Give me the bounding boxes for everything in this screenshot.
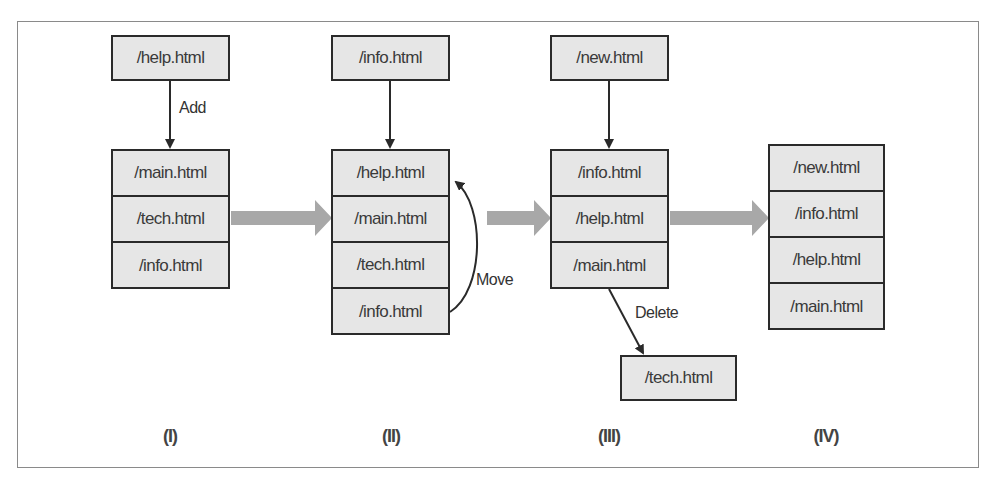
page-entry: /tech.html bbox=[622, 357, 735, 399]
transition-arrow-icon bbox=[231, 200, 332, 236]
page-entry: /info.html bbox=[770, 192, 883, 238]
page-entry: /info.html bbox=[552, 151, 667, 197]
page-entry: /main.html bbox=[333, 197, 448, 243]
page-entry: /help.html bbox=[333, 151, 448, 197]
page-entry: /new.html bbox=[552, 37, 667, 79]
operation-label-delete: Delete bbox=[635, 304, 678, 322]
incoming-page-box: /help.html bbox=[111, 35, 230, 81]
transition-arrow-icon bbox=[487, 200, 551, 236]
page-entry: /new.html bbox=[770, 146, 883, 192]
operation-label-add: Add bbox=[179, 99, 206, 117]
page-entry: /main.html bbox=[552, 243, 667, 289]
operation-label-move: Move bbox=[476, 271, 513, 289]
incoming-page-box: /info.html bbox=[331, 35, 450, 81]
page-entry: /help.html bbox=[113, 37, 228, 79]
incoming-page-box: /new.html bbox=[550, 35, 669, 81]
stage-label-4: (IV) bbox=[814, 426, 839, 447]
stage-label-3: (III) bbox=[598, 426, 620, 447]
page-list-stage-3: /info.html /help.html /main.html bbox=[550, 149, 669, 289]
page-entry: /help.html bbox=[770, 238, 883, 284]
page-entry: /main.html bbox=[770, 284, 883, 330]
page-entry: /help.html bbox=[552, 197, 667, 243]
page-entry: /info.html bbox=[333, 37, 448, 79]
page-entry: /tech.html bbox=[333, 243, 448, 289]
stage-label-1: (I) bbox=[163, 426, 177, 447]
move-arrow-icon bbox=[450, 182, 477, 312]
page-list-stage-4: /new.html /info.html /help.html /main.ht… bbox=[768, 144, 885, 330]
page-entry: /info.html bbox=[333, 289, 448, 335]
stage-label-2: (II) bbox=[382, 426, 400, 447]
removed-page-box: /tech.html bbox=[620, 355, 737, 401]
transition-arrow-icon bbox=[670, 200, 769, 236]
page-list-stage-1: /main.html /tech.html /info.html bbox=[111, 149, 230, 289]
page-list-stage-2: /help.html /main.html /tech.html /info.h… bbox=[331, 149, 450, 335]
page-entry: /main.html bbox=[113, 151, 228, 197]
page-entry: /tech.html bbox=[113, 197, 228, 243]
page-entry: /info.html bbox=[113, 243, 228, 289]
